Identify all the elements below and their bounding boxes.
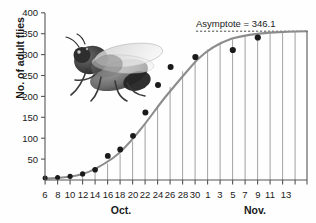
data-point: [105, 153, 111, 159]
data-point: [80, 171, 85, 176]
data-point: [68, 174, 73, 179]
data-point: [117, 147, 123, 153]
y-tick-label-250: 250: [12, 70, 38, 81]
y-tick-label-350: 350: [12, 28, 38, 39]
y-tick-label-150: 150: [12, 112, 38, 123]
x-axis-month-november: Nov.: [232, 204, 278, 216]
data-point: [130, 133, 136, 139]
data-point: [55, 175, 60, 180]
x-axis-month-october: Oct.: [98, 204, 144, 216]
plot-area: [41, 13, 307, 185]
y-tick-label-100: 100: [12, 133, 38, 144]
x-axis-ticks: [45, 180, 307, 185]
x-tick-label-19: 13: [278, 189, 294, 200]
y-tick-label-400: 400: [12, 7, 38, 18]
x-tick-label-18: 11: [262, 189, 278, 200]
y-tick-label-50: 50: [12, 154, 38, 165]
y-tick-label-300: 300: [12, 49, 38, 60]
data-point: [192, 54, 198, 60]
axes: [45, 13, 307, 180]
data-point: [92, 167, 98, 173]
data-point: [255, 34, 261, 40]
data-point: [142, 110, 148, 116]
data-point: [230, 47, 236, 53]
y-axis-ticks: [41, 13, 45, 159]
figure-panel: No. of adult flies Asymptote = 346.1: [0, 0, 316, 223]
y-tick-label-200: 200: [12, 91, 38, 102]
drosophila-fly-photo: [66, 34, 164, 101]
data-point: [168, 64, 174, 70]
data-point: [155, 82, 161, 88]
